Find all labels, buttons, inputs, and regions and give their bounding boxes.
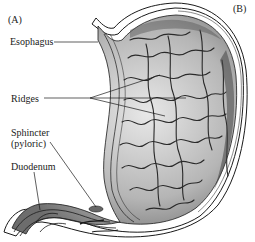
sphincter-leader	[50, 142, 96, 207]
label-sphincter: Sphincter	[11, 127, 49, 138]
stomach-diagram: (A) (B) Esophagus Ridges Sphincter (pylo…	[0, 0, 255, 242]
label-pyloric: (pyloric)	[11, 138, 46, 149]
panel-label-b: (B)	[233, 3, 246, 14]
panel-label-a: (A)	[8, 14, 22, 25]
label-ridges: Ridges	[11, 93, 39, 104]
label-duodenum: Duodenum	[11, 161, 55, 172]
label-esophagus: Esophagus	[10, 36, 53, 47]
stomach-lining	[12, 15, 237, 234]
